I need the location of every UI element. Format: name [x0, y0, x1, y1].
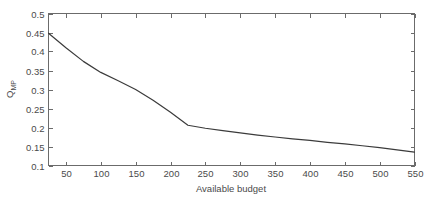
- y-tick-label: 0.15: [26, 142, 45, 153]
- x-tick-label: 500: [373, 168, 389, 179]
- y-tick-label: 0.35: [26, 66, 45, 77]
- y-tick-label: 0.45: [26, 28, 45, 39]
- x-tick-label: 400: [303, 168, 319, 179]
- y-tick-label: 0.3: [31, 85, 44, 96]
- x-tick-label: 450: [338, 168, 354, 179]
- x-tick-label: 100: [94, 168, 110, 179]
- x-axis-label: Available budget: [196, 183, 266, 194]
- x-tick-label: 50: [61, 168, 72, 179]
- y-axis-label-subscript: MP: [10, 80, 17, 91]
- y-tick-label: 0.4: [31, 46, 44, 57]
- y-tick-label: 0.1: [31, 161, 44, 172]
- x-tick-label: 250: [198, 168, 214, 179]
- x-tick-label: 300: [233, 168, 249, 179]
- line-chart: 50100150200250300350400450500550 0.10.15…: [0, 0, 425, 199]
- x-tick-label: 550: [408, 168, 424, 179]
- x-tick-label: 150: [129, 168, 145, 179]
- x-tick-label: 200: [164, 168, 180, 179]
- y-tick-label: 0.5: [31, 9, 44, 20]
- chart-figure: 50100150200250300350400450500550 0.10.15…: [0, 0, 425, 199]
- x-tick-label: 350: [268, 168, 284, 179]
- y-tick-label: 0.25: [26, 104, 45, 115]
- y-tick-label: 0.2: [31, 123, 44, 134]
